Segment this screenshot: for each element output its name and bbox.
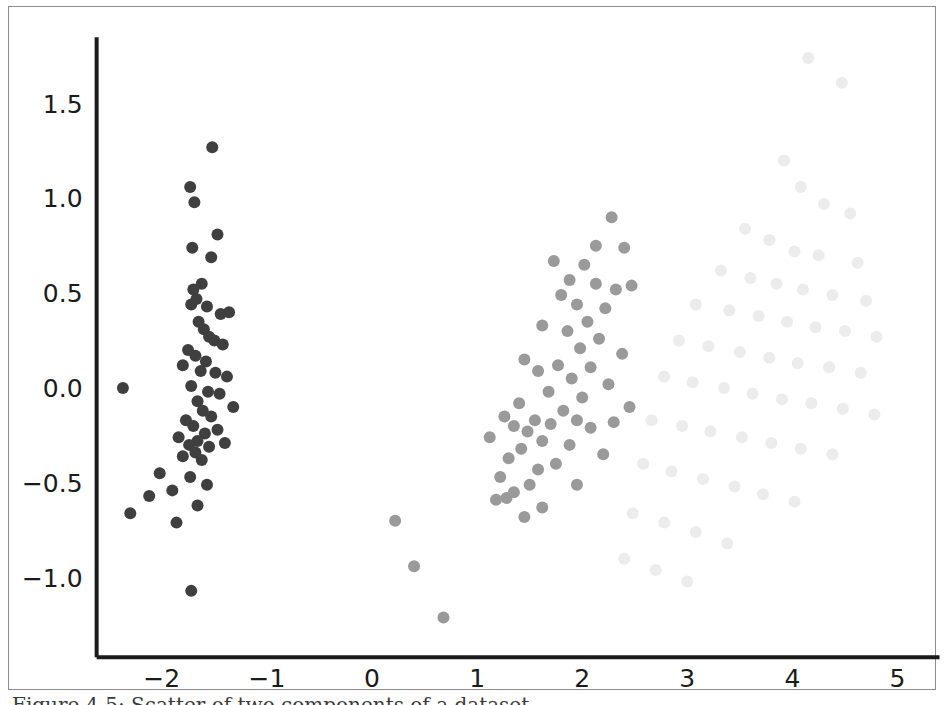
scatter-point <box>205 410 217 422</box>
scatter-point <box>744 272 756 284</box>
scatter-point <box>870 331 882 343</box>
scatter-point <box>608 416 620 428</box>
scatter-point <box>215 308 227 320</box>
scatter-point <box>789 496 801 508</box>
scatter-point <box>508 420 520 432</box>
scatter-point <box>501 492 513 504</box>
scatter-point <box>795 443 807 455</box>
scatter-series-cluster-mid-gray <box>389 211 637 623</box>
scatter-point <box>855 367 867 379</box>
scatter-point <box>616 348 628 360</box>
scatter-point <box>810 321 822 333</box>
scatter-point <box>529 414 541 426</box>
scatter-point <box>723 304 735 316</box>
scatter-point <box>868 409 880 421</box>
scatter-point <box>599 302 611 314</box>
scatter-point <box>624 401 636 413</box>
scatter-point <box>734 346 746 358</box>
scatter-point <box>143 490 155 502</box>
scatter-point <box>185 299 197 311</box>
scatter-point <box>545 418 557 430</box>
scatter-point <box>860 295 872 307</box>
scatter-point <box>765 437 777 449</box>
scatter-point <box>536 501 548 513</box>
scatter-point <box>117 382 129 394</box>
scatter-plot: −2−1012345 −1.0−0.50.00.51.01.5 <box>0 0 944 705</box>
scatter-point <box>564 274 576 286</box>
scatter-point <box>805 397 817 409</box>
scatter-point <box>513 397 525 409</box>
scatter-point <box>626 280 638 292</box>
scatter-point <box>797 283 809 295</box>
scatter-series-cluster-dark <box>117 141 239 597</box>
scatter-point <box>543 386 555 398</box>
scatter-point <box>171 517 183 529</box>
scatter-point <box>585 361 597 373</box>
scatter-point <box>524 479 536 491</box>
scatter-point <box>184 471 196 483</box>
scatter-point <box>676 420 688 432</box>
scatter-point <box>590 278 602 290</box>
scatter-point <box>836 77 848 89</box>
scatter-point <box>637 458 649 470</box>
y-axis-tick-label: 0.5 <box>43 279 83 308</box>
x-axis-tick-label: −2 <box>143 664 180 693</box>
scatter-point <box>736 431 748 443</box>
scatter-point <box>484 431 496 443</box>
scatter-point <box>205 251 217 263</box>
scatter-point <box>826 289 838 301</box>
x-axis-tick-label: 4 <box>784 664 800 693</box>
scatter-point <box>852 257 864 269</box>
scatter-point <box>561 325 573 337</box>
scatter-point <box>826 448 838 460</box>
scatter-point <box>571 479 583 491</box>
scatter-point <box>206 141 218 153</box>
scatter-point <box>776 393 788 405</box>
scatter-point <box>552 359 564 371</box>
scatter-point <box>606 211 618 223</box>
scatter-point <box>571 414 583 426</box>
scatter-point <box>219 437 231 449</box>
scatter-point <box>839 325 851 337</box>
figure-page: −2−1012345 −1.0−0.50.00.51.01.5 Figure 4… <box>0 0 944 705</box>
scatter-point <box>196 454 208 466</box>
scatter-point <box>564 439 576 451</box>
scatter-point <box>590 240 602 252</box>
scatter-point <box>227 401 239 413</box>
x-axis-tick-label: 0 <box>364 664 380 693</box>
scatter-point <box>201 479 213 491</box>
y-axis-tick-labels: −1.0−0.50.00.51.01.5 <box>22 90 83 593</box>
scatter-point <box>646 414 658 426</box>
scatter-point <box>729 481 741 493</box>
scatter-point <box>566 373 578 385</box>
scatter-point <box>802 52 814 64</box>
scatter-point <box>618 242 630 254</box>
scatter-point <box>498 410 510 422</box>
x-axis-tick-label: −1 <box>248 664 285 693</box>
x-axis-tick-label: 2 <box>574 664 590 693</box>
scatter-point <box>184 181 196 193</box>
scatter-point <box>173 431 185 443</box>
scatter-point <box>188 196 200 208</box>
scatter-point <box>778 154 790 166</box>
scatter-point <box>203 441 215 453</box>
scatter-point <box>186 242 198 254</box>
scatter-series-cluster-faint <box>618 52 882 587</box>
scatter-point <box>581 316 593 328</box>
scatter-point <box>658 371 670 383</box>
scatter-point <box>518 354 530 366</box>
scatter-point <box>503 452 515 464</box>
scatter-point <box>548 255 560 267</box>
scatter-point <box>715 264 727 276</box>
scatter-point <box>209 367 221 379</box>
scatter-point <box>789 245 801 257</box>
scatter-point <box>578 259 590 271</box>
scatter-point <box>214 388 226 400</box>
scatter-point <box>823 361 835 373</box>
scatter-point <box>746 388 758 400</box>
figure-caption: Figure 4-5: Scatter of two components of… <box>12 694 912 705</box>
scatter-point <box>187 420 199 432</box>
scatter-point <box>202 386 214 398</box>
x-axis-tick-label: 1 <box>469 664 485 693</box>
scatter-point <box>771 278 783 290</box>
